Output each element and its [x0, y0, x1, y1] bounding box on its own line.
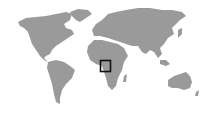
- region-japan: [178, 28, 182, 38]
- continent-south-america: [47, 60, 75, 104]
- continent-north-america: [18, 12, 74, 62]
- region-madagascar: [123, 74, 127, 82]
- world-map-svg: [0, 0, 211, 113]
- world-locator-map: [0, 0, 211, 113]
- region-southeast-asia-islands: [160, 60, 170, 66]
- continent-greenland: [70, 9, 92, 22]
- continent-australia: [168, 72, 192, 90]
- continent-africa: [87, 40, 128, 90]
- region-new-zealand: [195, 90, 199, 96]
